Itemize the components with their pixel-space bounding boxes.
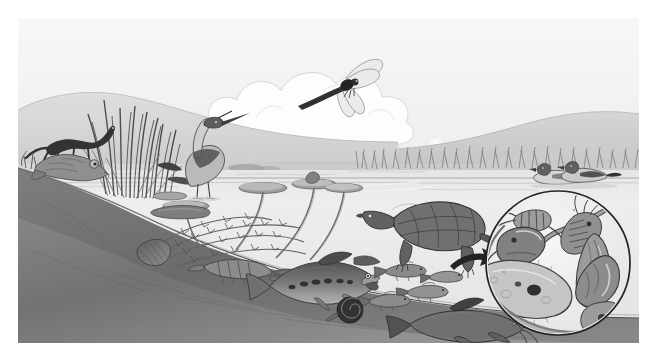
pond-ecosystem-illustration bbox=[18, 18, 639, 343]
dragonfly-head bbox=[352, 79, 359, 86]
duck-reflection bbox=[530, 183, 618, 189]
illustration-stage: Pond Ecosystem Cross-Section grayscale p… bbox=[0, 0, 657, 361]
paramecium-macronucleus bbox=[527, 284, 541, 295]
artwork-svg bbox=[18, 18, 639, 343]
